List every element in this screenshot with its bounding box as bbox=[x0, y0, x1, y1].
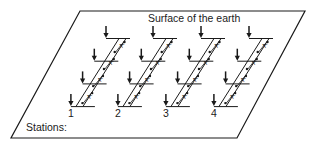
arrowhead-icon bbox=[92, 56, 97, 61]
arrowhead-icon bbox=[163, 101, 168, 106]
station-number-4: 4 bbox=[211, 107, 217, 119]
arrowhead-icon bbox=[198, 33, 203, 38]
arrowhead-icon bbox=[246, 33, 251, 38]
arrowhead-icon bbox=[115, 101, 120, 106]
arrowhead-icon bbox=[80, 78, 85, 83]
arrowhead-icon bbox=[223, 78, 228, 83]
earth-surface-plane bbox=[11, 11, 305, 138]
arrowhead-icon bbox=[68, 101, 73, 106]
arrowhead-icon bbox=[139, 56, 144, 61]
arrowhead-icon bbox=[211, 101, 216, 106]
arrowhead-icon bbox=[235, 56, 240, 61]
arrowhead-icon bbox=[187, 56, 192, 61]
station-number-3: 3 bbox=[163, 107, 169, 119]
arrowhead-icon bbox=[175, 78, 180, 83]
arrowhead-icon bbox=[127, 78, 132, 83]
stations-label: Stations: bbox=[26, 121, 67, 133]
station-number-1: 1 bbox=[68, 107, 74, 119]
surface-title: Surface of the earth bbox=[148, 12, 240, 24]
station-number-2: 2 bbox=[115, 107, 121, 119]
arrowhead-icon bbox=[103, 33, 108, 38]
arrowhead-icon bbox=[150, 33, 155, 38]
station-1: AAAA bbox=[68, 26, 130, 107]
